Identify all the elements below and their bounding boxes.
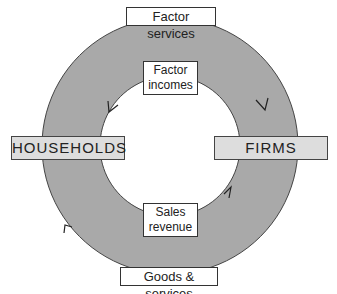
- factor-incomes-line1: Factor: [144, 63, 197, 78]
- factor-services-label: Factor services: [126, 7, 216, 26]
- factor-incomes-line2: incomes: [144, 78, 197, 93]
- sales-revenue-label: Sales revenue: [143, 203, 198, 237]
- goods-services-label: Goods & services: [120, 267, 218, 286]
- sales-revenue-line2: revenue: [144, 220, 197, 235]
- households-node: HOUSEHOLDS: [11, 136, 125, 160]
- factor-incomes-label: Factor incomes: [143, 61, 198, 95]
- firms-node: FIRMS: [214, 136, 328, 160]
- arrow-outer-bottom-left-icon: [64, 225, 72, 233]
- sales-revenue-line1: Sales: [144, 205, 197, 220]
